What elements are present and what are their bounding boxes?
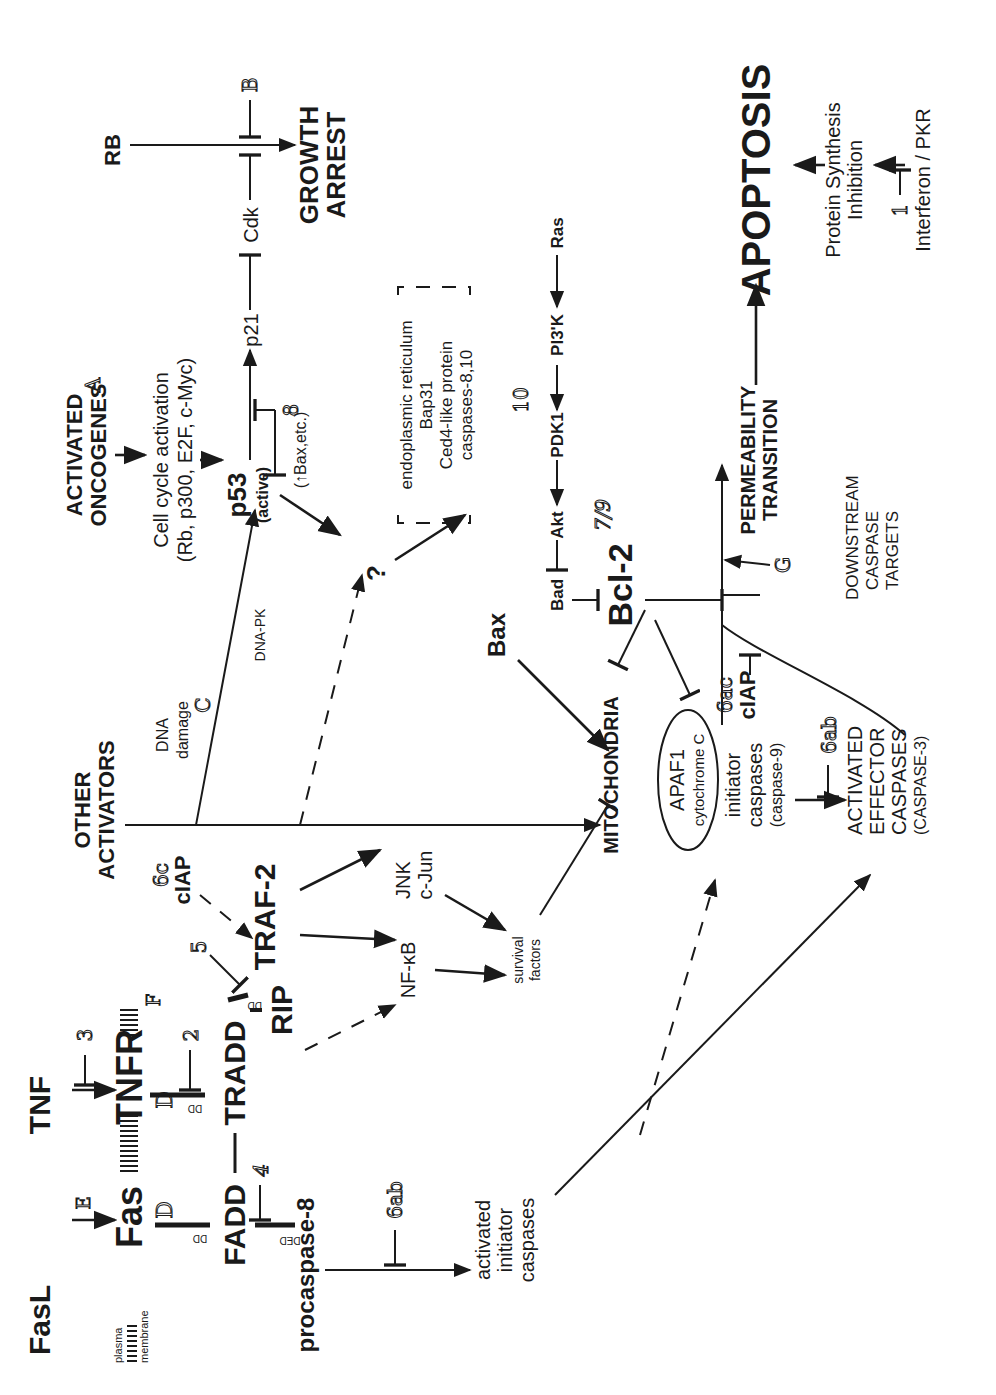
dd-label-fas: DD — [193, 1233, 207, 1244]
unknown-to-bax-arrow — [395, 515, 465, 560]
dd-label-tnfr: DD — [188, 1103, 202, 1114]
tag-A: A — [81, 377, 105, 393]
cdk-node: Cdk — [240, 206, 262, 243]
activated-initiator-l2: initiator — [494, 1207, 516, 1272]
procaspase8-node: procaspase-8 — [292, 1198, 319, 1353]
er-line-4: caspases-8,10 — [457, 350, 476, 461]
oncogenes-l2: ONCOGENES — [86, 383, 111, 526]
growth-arrest-l1: GROWTH — [294, 106, 324, 224]
dna-damage-to-p53-arrow — [196, 510, 255, 825]
er-line-3: Ced4-like protein — [437, 341, 456, 470]
p53-to-unknown-arrow — [280, 495, 340, 535]
survival-label-2: factors — [527, 939, 543, 981]
G-to-permeability-arrow — [725, 560, 770, 565]
protein-synth-l2: Inhibition — [844, 140, 866, 220]
tnf-label: TNF — [23, 1076, 56, 1134]
tag-6ab-left: 6ab — [383, 1181, 407, 1218]
downstream-l3: TARGETS — [883, 511, 902, 590]
survival-inhibits-mitochondria — [540, 805, 608, 915]
bad-node: Bad — [548, 579, 567, 611]
dna-damage-l2: damage — [174, 701, 191, 759]
effector-l4: (CASPASE-3) — [912, 736, 929, 835]
tag-6ab-mid: 6ab — [817, 716, 841, 753]
jnk-node: JNK — [392, 860, 414, 898]
rip-to-nfkb-dashed-arrow — [305, 1005, 395, 1050]
tag-7-9: 7/9 — [591, 499, 615, 531]
oncogenes-l1: ACTIVATED — [62, 394, 87, 517]
apoptosis-pathway-diagram: plasma membrane FasL E TNF 3 Fas TNFR F … — [0, 0, 996, 1395]
jnk-to-survival-arrow — [445, 895, 505, 930]
downstream-l1: DOWNSTREAM — [843, 475, 862, 600]
initiator-mid-l3: (caspase-9) — [768, 743, 785, 827]
initiator-mid-l1: initiator — [722, 752, 744, 817]
ras-node: Ras — [548, 217, 567, 248]
cell-cycle-l1: Cell cycle activation — [150, 372, 172, 548]
p53-node: p53 — [222, 473, 252, 518]
er-line-2: Bap31 — [417, 380, 436, 429]
dna-pk-label: DNA-PK — [252, 608, 268, 662]
other-activators-l2: ACTIVATORS — [94, 740, 119, 879]
ciap-mid-label: cIAP — [735, 671, 760, 720]
tag-4: 4 — [249, 1164, 273, 1178]
tag-G: G — [771, 557, 795, 573]
effector-l3: CASPASES — [888, 729, 910, 835]
tag-3: 3 — [73, 1029, 97, 1042]
fas-receptor: Fas — [109, 1186, 150, 1248]
dd-label-rip: DD — [248, 1000, 262, 1011]
other-activators-l1: OTHER — [70, 771, 95, 848]
p21-node: p21 — [240, 313, 262, 346]
protein-synth-l1: Protein Synthesis — [822, 102, 844, 258]
bcl2-node: Bcl-2 — [601, 543, 639, 626]
plasma-label: plasma — [112, 1327, 124, 1363]
initiator-to-effector-arrow — [555, 875, 870, 1195]
permeability-l1: PERMEABILITY — [737, 385, 759, 535]
pi3k-node: PI3'K — [548, 313, 567, 356]
tradd-traf2-link — [228, 995, 248, 1000]
apaf1-label: APAF1 — [666, 749, 688, 811]
tag-B: B — [238, 78, 262, 93]
cjun-node: c-Jun — [414, 851, 436, 900]
tag-E: E — [73, 1196, 94, 1209]
akt-node: Akt — [548, 511, 567, 539]
interferon-pkr-node: Interferon / PKR — [912, 108, 934, 251]
cytochrome-c-label: cytochrome C — [690, 734, 707, 827]
tag-10: 10 — [509, 387, 533, 412]
ciap-to-traf2-dashed-arrow — [200, 895, 252, 938]
unknown-node: ? — [361, 565, 391, 581]
activated-initiator-l3: caspases — [516, 1198, 538, 1283]
activated-initiator-l1: activated — [472, 1200, 494, 1280]
tag-D-fas: D — [152, 1201, 177, 1219]
permeability-l2: TRANSITION — [759, 399, 781, 521]
membrane-label: membrane — [138, 1310, 150, 1363]
tradd-node: TRADD — [218, 1021, 251, 1126]
tag-C: C — [191, 697, 215, 712]
nfkb-to-survival-arrow — [435, 970, 505, 975]
effector-l1: ACTIVATED — [844, 726, 866, 835]
tag-5: 5 — [187, 941, 211, 954]
mitochondria-node: MITOCHONDRIA — [600, 696, 622, 853]
bax-node: Bax — [483, 612, 510, 657]
dna-damage-l1: DNA — [154, 718, 171, 752]
fasl-label: FasL — [23, 1285, 56, 1355]
effector-l2: EFFECTOR — [866, 728, 888, 835]
ciap-top-label: cIAP — [170, 856, 195, 905]
tag-6ac: 6ac — [713, 677, 737, 713]
er-box: endoplasmic reticulum Bap31 Ced4-like pr… — [397, 287, 476, 523]
bax-etc-note: (↑Bax,etc.) — [292, 412, 309, 488]
initiator-mid-l2: caspases — [744, 743, 766, 828]
traf2-node: TRAF-2 — [248, 864, 281, 971]
tag-F: F — [143, 994, 164, 1007]
bax-to-mitochondria-arrow — [518, 660, 608, 750]
traf2-to-jnk-arrow — [300, 850, 380, 890]
growth-arrest-l2: ARREST — [321, 111, 351, 218]
fadd-node: FADD — [218, 1184, 251, 1266]
cell-cycle-l2: (Rb, p300, E2F, c-Myc) — [174, 358, 196, 563]
bcl2-inhibits-apaf1 — [655, 620, 690, 695]
pdk1-node: PDK1 — [548, 412, 567, 457]
apoptosis-node: APOPTOSIS — [734, 64, 778, 297]
er-line-1: endoplasmic reticulum — [397, 320, 416, 489]
rb-node: RB — [100, 134, 125, 166]
p53-active-label: (active) — [254, 467, 271, 523]
downstream-connector — [722, 595, 760, 625]
initiator-to-caspase9-dashed-arrow — [640, 880, 715, 1135]
